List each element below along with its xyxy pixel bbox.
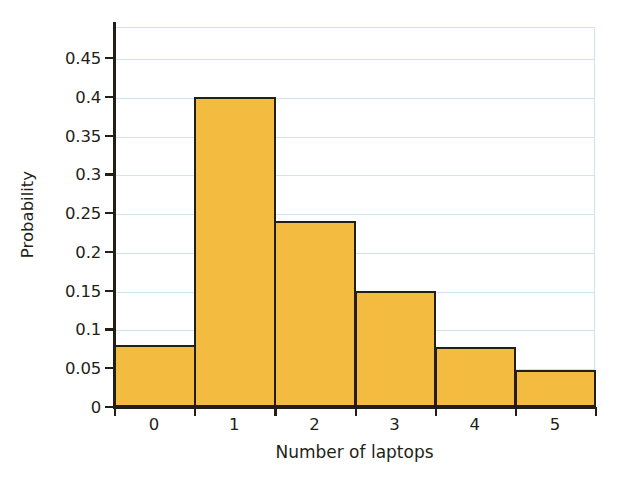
y-axis-tick-labels: 00.050.10.150.20.250.30.350.40.45 [0,0,101,484]
y-axis-tick-2 [105,328,114,330]
y-axis-tick-label-5: 0.25 [65,204,101,223]
y-axis-tick-1 [105,367,114,369]
x-axis-tick-0 [114,407,116,416]
y-axis-tick-label-0: 0 [91,398,101,417]
bar-3 [355,291,437,407]
y-axis-tick-label-9: 0.45 [65,49,101,68]
y-axis-tick-label-8: 0.4 [75,87,101,106]
y-axis-tick-6 [105,173,114,175]
y-axis-tick-3 [105,290,114,292]
y-axis-tick-0 [105,406,114,408]
y-axis-tick-label-4: 0.2 [75,242,101,261]
y-axis-tick-5 [105,212,114,214]
y-axis-tick-9 [105,57,114,59]
bar-0 [114,345,196,407]
y-axis-tick-label-3: 0.15 [65,281,101,300]
probability-histogram-figure: 00.050.10.150.20.250.30.350.40.45 Probab… [0,0,617,484]
x-axis-tick-1 [194,407,196,416]
x-axis-tick-5 [515,407,517,416]
x-axis-tick-4 [435,407,437,416]
bar-1 [194,97,276,407]
y-axis-tick-label-6: 0.3 [75,165,101,184]
bar-2 [274,221,356,407]
y-axis-tick-label-1: 0.05 [65,359,101,378]
y-axis-title: Probability [18,145,37,285]
x-axis-title: Number of laptops [114,442,595,462]
x-axis-tick-6 [595,407,597,416]
y-axis-tick-label-2: 0.1 [75,320,101,339]
y-axis-tick-label-7: 0.35 [65,126,101,145]
x-axis-tick-label-3: 3 [389,415,400,434]
x-axis-tick-label-0: 0 [149,415,160,434]
x-axis-tick-label-2: 2 [309,415,320,434]
x-axis-tick-3 [355,407,357,416]
bar-4 [435,347,517,407]
chart-plot-area [114,27,595,407]
x-axis-tick-label-4: 4 [470,415,481,434]
x-axis-tick-label-5: 5 [550,415,561,434]
y-axis-tick-8 [105,96,114,98]
bar-5 [515,370,597,407]
y-axis-tick-7 [105,135,114,137]
x-axis-tick-label-1: 1 [229,415,240,434]
x-axis-tick-2 [274,407,276,416]
y-axis-tick-4 [105,251,114,253]
